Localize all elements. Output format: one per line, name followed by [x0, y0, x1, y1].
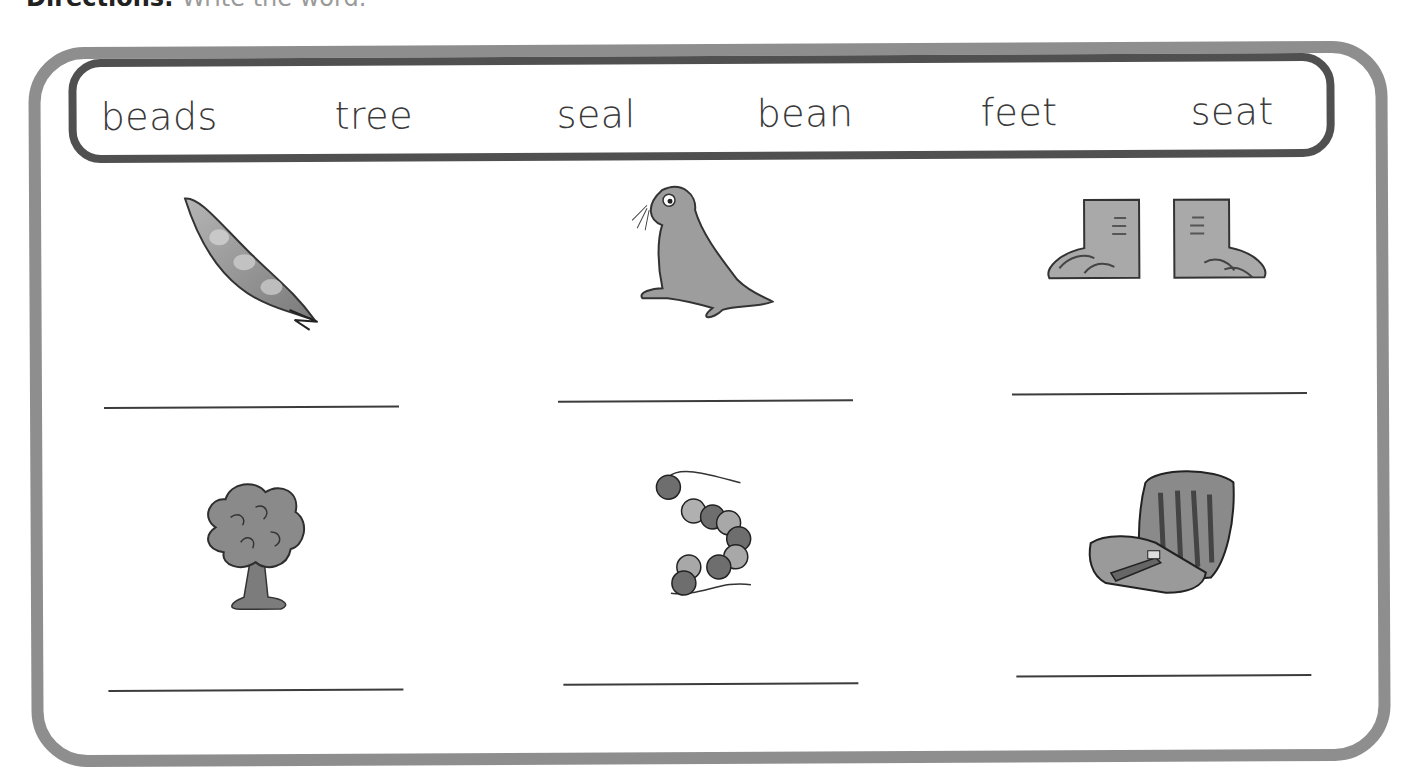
word-bank-word: tree	[334, 93, 413, 137]
worksheet: beads tree seal bean feet seat	[0, 0, 1401, 769]
seal-picture	[627, 180, 778, 326]
tree-picture	[195, 477, 316, 613]
bean-pod-picture	[179, 192, 320, 333]
word-bank-word: feet	[980, 90, 1057, 134]
word-bank-word: beads	[101, 94, 218, 139]
word-bank: beads tree seal bean feet seat	[68, 53, 1334, 163]
word-bank-word: bean	[756, 91, 853, 135]
word-bank-word: seal	[556, 92, 635, 136]
beads-picture	[650, 465, 781, 606]
word-bank-word: seat	[1190, 89, 1274, 133]
feet-picture	[1044, 197, 1274, 293]
seat-picture	[1085, 462, 1241, 603]
